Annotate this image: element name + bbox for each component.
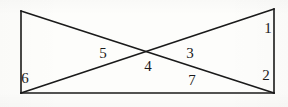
angle-label-4: 4 [144,59,152,74]
angle-label-3: 3 [186,46,194,61]
angle-label-7: 7 [188,73,196,88]
figure-canvas [0,0,288,107]
angle-label-6: 6 [21,71,29,86]
geometry-figure: 1 2 3 4 5 6 7 [0,0,288,107]
angle-label-1: 1 [264,21,272,36]
angle-label-5: 5 [99,46,107,61]
angle-label-2: 2 [262,68,270,83]
